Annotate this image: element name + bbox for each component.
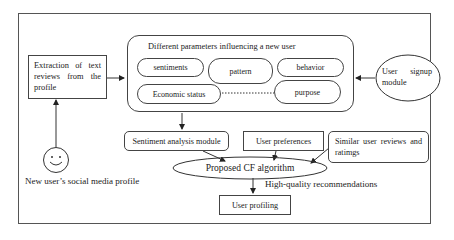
param-pattern-label: pattern — [229, 67, 251, 76]
param-purpose: purpose — [274, 80, 341, 104]
param-economic-status-label: Economic status — [153, 90, 206, 99]
param-sentiments: sentiments — [137, 58, 204, 77]
param-pattern: pattern — [208, 58, 273, 84]
param-behavior: behavior — [277, 58, 344, 77]
smiley-face-icon — [44, 148, 69, 173]
param-sentiments-label: sentiments — [153, 63, 187, 72]
param-economic-status: Economic status — [137, 84, 221, 104]
sentiment-analysis-module: Sentiment analysis module — [124, 131, 229, 151]
extraction-box-label: Extraction of text reviews from the prof… — [34, 61, 101, 92]
cf-algorithm-node: Proposed CF algorithm — [173, 157, 327, 179]
similar-reviews-box: Similar user reviews and ratimgs — [328, 131, 429, 163]
parameters-group-title: Different parameters influencing a new u… — [148, 42, 296, 51]
cf-algorithm-label: Proposed CF algorithm — [206, 163, 295, 173]
user-preferences-label: User preferences — [256, 136, 311, 147]
param-purpose-label: purpose — [295, 88, 320, 97]
user-profiling-label: User profiling — [232, 200, 278, 211]
signup-node-label: User signup module — [382, 67, 432, 87]
sentiment-analysis-label: Sentiment analysis module — [132, 137, 220, 146]
output-label: High-quality recommendations — [265, 179, 377, 189]
new-user-label: New user’s social media profile — [25, 176, 139, 186]
extraction-box: Extraction of text reviews from the prof… — [28, 55, 107, 99]
signup-node: User signup module — [382, 66, 432, 88]
user-profiling-box: User profiling — [219, 195, 291, 215]
user-preferences-box: User preferences — [243, 131, 324, 151]
similar-reviews-label: Similar user reviews and ratimgs — [335, 137, 422, 157]
param-behavior-label: behavior — [297, 63, 325, 72]
